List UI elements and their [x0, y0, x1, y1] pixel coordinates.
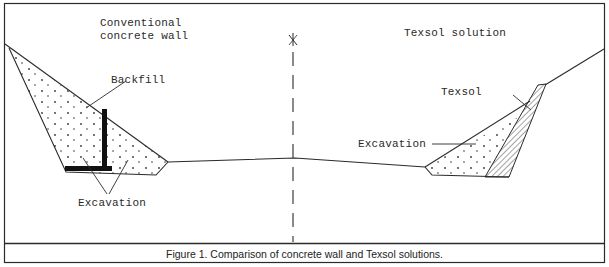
backfill-area [8, 47, 168, 175]
texsol-label: Texsol [441, 85, 482, 99]
figure-caption: Figure 1. Comparison of concrete wall an… [4, 246, 605, 263]
left-section [5, 44, 168, 194]
backfill-label: Backfill [111, 73, 165, 87]
left-title-line1: Conventional [100, 16, 182, 30]
figure-comparison: Conventional concrete wall Backfill Exca… [0, 0, 609, 267]
left-title-line2: concrete wall [100, 29, 188, 43]
diagram-drawing [0, 0, 609, 267]
excavation-label-right: Excavation [358, 137, 426, 151]
right-section [425, 49, 604, 177]
ground-line [168, 158, 425, 167]
centerline [289, 33, 297, 242]
right-ground-slope [545, 49, 604, 85]
concrete-wall-stem [102, 109, 107, 171]
excavation-label-left: Excavation [78, 196, 146, 210]
right-title: Texsol solution [404, 26, 506, 40]
